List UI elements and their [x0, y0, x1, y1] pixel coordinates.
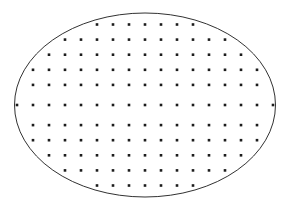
lattice-point — [64, 154, 67, 157]
lattice-point — [208, 154, 211, 157]
lattice-point — [96, 169, 99, 172]
lattice-point — [80, 69, 83, 72]
lattice-point — [96, 124, 99, 127]
lattice-point — [240, 124, 243, 127]
lattice-point — [64, 84, 67, 87]
lattice-point — [144, 38, 147, 41]
lattice-point — [256, 104, 259, 107]
lattice-point — [80, 124, 83, 127]
lattice-point — [32, 139, 35, 142]
lattice-point — [48, 53, 51, 56]
lattice-point — [192, 154, 195, 157]
lattice-point — [32, 124, 35, 127]
lattice-point — [112, 104, 115, 107]
lattice-point — [96, 53, 99, 56]
lattice-point — [64, 124, 67, 127]
lattice-point — [112, 154, 115, 157]
lattice-point — [160, 124, 163, 127]
lattice-point — [64, 53, 67, 56]
lattice-point — [128, 84, 131, 87]
lattice-point — [48, 124, 51, 127]
lattice-point — [112, 84, 115, 87]
lattice-point — [192, 69, 195, 72]
lattice-point — [128, 104, 131, 107]
lattice-point — [112, 23, 115, 26]
lattice-point — [128, 154, 131, 157]
lattice-point — [128, 169, 131, 172]
lattice-point — [176, 139, 179, 142]
lattice-point — [240, 154, 243, 157]
lattice-point — [208, 69, 211, 72]
lattice-point — [192, 53, 195, 56]
lattice-point — [224, 139, 227, 142]
lattice-point — [224, 169, 227, 172]
lattice-point — [160, 23, 163, 26]
lattice-point — [192, 38, 195, 41]
lattice-point — [80, 84, 83, 87]
lattice-point — [96, 184, 99, 187]
lattice-point — [208, 38, 211, 41]
lattice-point — [80, 169, 83, 172]
lattice-point — [176, 169, 179, 172]
lattice-point — [176, 184, 179, 187]
lattice-point — [224, 124, 227, 127]
lattice-point — [48, 139, 51, 142]
lattice-point — [80, 139, 83, 142]
lattice-point — [160, 53, 163, 56]
lattice-point — [224, 154, 227, 157]
lattice-point — [144, 154, 147, 157]
lattice-point — [256, 84, 259, 87]
lattice-point — [128, 53, 131, 56]
lattice-point — [256, 69, 259, 72]
lattice-point — [192, 169, 195, 172]
lattice-point — [176, 23, 179, 26]
lattice-point — [240, 53, 243, 56]
lattice-point — [144, 104, 147, 107]
lattice-point — [208, 139, 211, 142]
lattice-point — [192, 23, 195, 26]
lattice-point — [208, 84, 211, 87]
lattice-point — [192, 184, 195, 187]
lattice-point — [128, 124, 131, 127]
lattice-point — [176, 69, 179, 72]
lattice-point — [256, 139, 259, 142]
lattice-point — [144, 53, 147, 56]
lattice-point — [112, 53, 115, 56]
lattice-point — [176, 38, 179, 41]
lattice-point — [144, 184, 147, 187]
lattice-point — [208, 124, 211, 127]
lattice-point — [96, 139, 99, 142]
lattice-point — [128, 184, 131, 187]
lattice-point — [96, 84, 99, 87]
lattice-point — [144, 124, 147, 127]
lattice-point — [64, 139, 67, 142]
lattice-point — [128, 139, 131, 142]
lattice-point — [160, 84, 163, 87]
lattice-point — [160, 169, 163, 172]
lattice-point — [176, 154, 179, 157]
lattice-point — [208, 104, 211, 107]
lattice-point — [80, 53, 83, 56]
lattice-point — [144, 169, 147, 172]
lattice-point — [160, 184, 163, 187]
lattice-point — [144, 23, 147, 26]
lattice-point — [48, 69, 51, 72]
lattice-point — [32, 84, 35, 87]
lattice-point — [224, 69, 227, 72]
lattice-point — [144, 84, 147, 87]
lattice-point — [208, 53, 211, 56]
lattice-point — [176, 104, 179, 107]
lattice-point — [240, 139, 243, 142]
lattice-point — [80, 104, 83, 107]
lattice-point — [240, 69, 243, 72]
lattice-point — [176, 84, 179, 87]
lattice-point — [192, 104, 195, 107]
lattice-point — [16, 104, 19, 107]
lattice-point — [112, 69, 115, 72]
lattice-point — [112, 139, 115, 142]
lattice-point — [240, 84, 243, 87]
lattice-point — [192, 139, 195, 142]
lattice-point — [96, 23, 99, 26]
lattice-point — [112, 169, 115, 172]
lattice-point — [48, 84, 51, 87]
